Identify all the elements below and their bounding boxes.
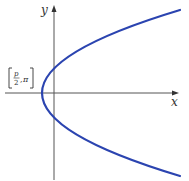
vertex-label: p 2 , π	[9, 68, 33, 88]
parabola-diagram: y x p 2 , π	[0, 0, 189, 181]
vertex-label-denominator: 2	[14, 79, 18, 87]
y-axis-arrow-icon	[52, 5, 57, 12]
x-axis-label: x	[171, 95, 178, 109]
vertex-label-angle: π	[22, 75, 29, 84]
x-axis	[5, 91, 179, 96]
y-axis-label: y	[40, 3, 48, 17]
vertex-label-numerator: p	[14, 70, 19, 78]
